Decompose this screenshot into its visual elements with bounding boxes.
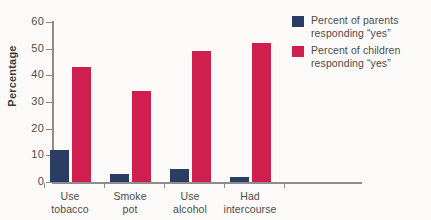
bar-parents [110, 174, 129, 182]
y-axis-tick-label: 20 [0, 122, 44, 134]
x-axis-line [52, 182, 362, 184]
y-axis-tick-label: 50 [0, 42, 44, 54]
y-axis-tick-label: 60 [0, 15, 44, 27]
legend-label-line: Percent of children [311, 44, 400, 57]
y-axis-tick-label: 0 [0, 175, 44, 187]
bar-children [252, 43, 271, 182]
y-axis-tick-label: 30 [0, 95, 44, 107]
x-axis-tick-mark [224, 183, 225, 188]
y-axis-tick-label: 40 [0, 68, 44, 80]
bar-children [72, 67, 91, 182]
legend-item: Percent of childrenresponding “yes” [292, 44, 431, 69]
x-axis-tick-mark [44, 183, 45, 188]
category-label-line: Had [215, 190, 285, 203]
legend-label-line: Percent of parents [311, 14, 399, 27]
x-axis-category-label: Hadintercourse [215, 190, 285, 215]
legend-label-line: responding “yes” [311, 27, 399, 40]
legend-swatch-parents [292, 16, 304, 27]
legend-label: Percent of childrenresponding “yes” [311, 44, 400, 69]
legend-swatch-children [292, 46, 304, 57]
bar-children [132, 91, 151, 182]
chart-figure: Percentage 0102030405060 UsetobaccoSmoke… [0, 0, 431, 220]
x-axis-tick-mark [164, 183, 165, 188]
bar-parents [230, 177, 249, 182]
bar-parents [50, 150, 69, 182]
category-label-line: intercourse [215, 203, 285, 216]
y-axis-tick-label: 10 [0, 148, 44, 160]
plot-area [52, 22, 258, 182]
bar-children [192, 51, 211, 182]
bar-parents [170, 169, 189, 182]
legend-label-line: responding “yes” [311, 57, 400, 70]
legend-label: Percent of parentsresponding “yes” [311, 14, 399, 39]
legend-item: Percent of parentsresponding “yes” [292, 14, 431, 39]
x-axis-tick-mark [104, 183, 105, 188]
x-axis-tick-mark [284, 183, 285, 188]
legend: Percent of parentsresponding “yes”Percen… [292, 14, 431, 74]
